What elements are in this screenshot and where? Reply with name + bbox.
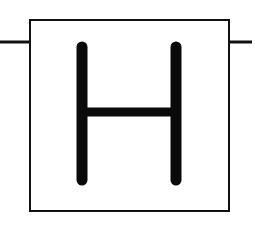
gate-diagram [0, 0, 255, 229]
